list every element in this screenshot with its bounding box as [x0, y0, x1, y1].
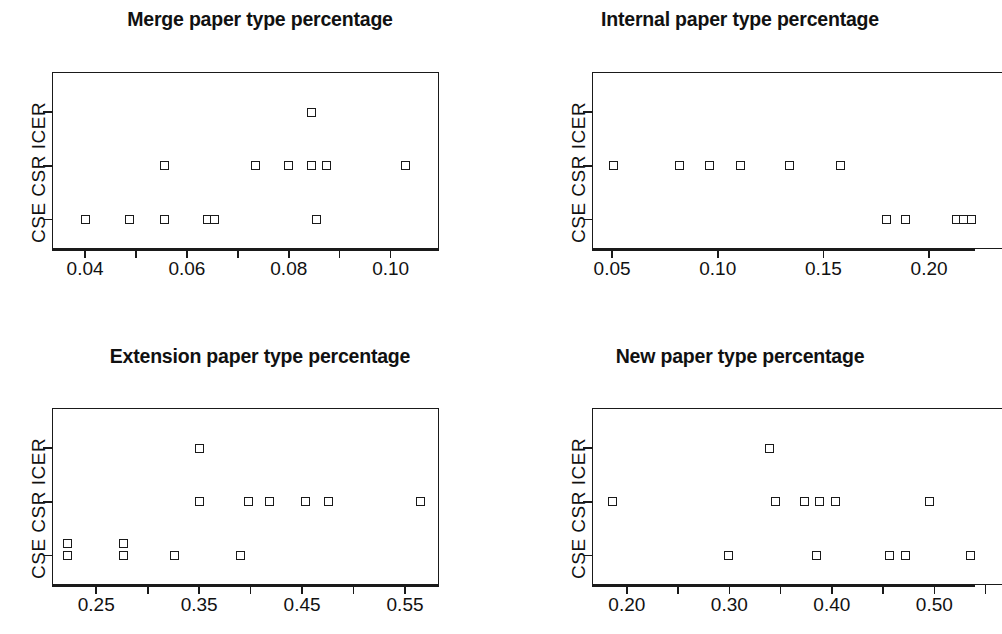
x-tick-label-new-2: 0.30	[689, 594, 769, 616]
data-point	[815, 497, 824, 506]
x-tick-label-new-4: 0.40	[792, 594, 872, 616]
data-point	[925, 497, 934, 506]
x-tick-label-new-6: 0.50	[894, 594, 974, 616]
data-point	[608, 497, 617, 506]
data-point	[771, 497, 780, 506]
data-point	[901, 551, 910, 560]
panel-title-new: New paper type percentage	[490, 345, 990, 368]
x-tick-label-new-0: 0.20	[587, 594, 667, 616]
data-point	[724, 551, 733, 560]
y-axis-label-new: CSE CSR ICER	[568, 438, 590, 579]
data-point	[765, 444, 774, 453]
y-tick-new-cse	[583, 555, 592, 557]
data-point	[812, 551, 821, 560]
x-axis-line-new	[592, 585, 975, 587]
y-tick-new-icer	[583, 447, 592, 449]
data-point	[800, 497, 809, 506]
data-point	[885, 551, 894, 560]
x-tick-new-7	[985, 585, 987, 594]
plot-frame-new	[592, 408, 1002, 585]
data-point	[966, 551, 975, 560]
y-tick-new-csr	[583, 501, 592, 503]
data-point	[831, 497, 840, 506]
